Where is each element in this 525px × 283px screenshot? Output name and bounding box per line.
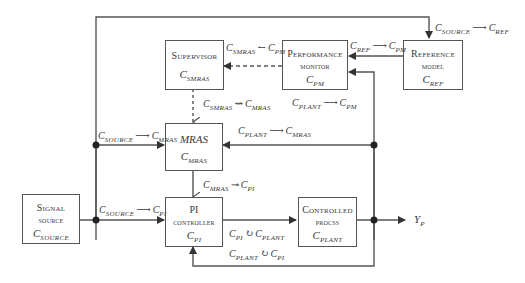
label-plant-to-mras: CPLANT⟶CMRAS <box>238 125 311 139</box>
label-source-to-pi: CSOURCE⟶CPI <box>99 204 167 218</box>
label-pi-with-plant: CPI↻CPLANT <box>229 228 284 242</box>
block-title-2: controller <box>166 216 222 229</box>
block-title-2: monitor <box>283 60 347 73</box>
block-title-2: procss <box>299 216 356 229</box>
label-smras-to-mras: CSMRAS⇝CMRAS <box>203 98 271 112</box>
block-title-2: source <box>23 214 79 227</box>
block-title: Supervisor <box>166 49 223 62</box>
junction-dot <box>371 217 378 224</box>
junction-dot <box>371 142 378 149</box>
pi-controller-block: PI controller CPI <box>165 197 223 247</box>
controlled-process-block: Controlled procss CPLANT <box>298 197 357 247</box>
signal-source-block: Signal source CSOURCE <box>22 194 80 244</box>
label-mras-to-pi: CMRAS⊸CPI <box>203 179 255 193</box>
block-symbol: CREF <box>404 73 462 91</box>
block-title: Signal <box>23 201 79 214</box>
block-title: Reference <box>404 47 462 60</box>
block-title-2: model <box>404 60 462 73</box>
label-ref-to-pm: CREF⟶CPM <box>350 40 406 54</box>
reference-model-block: Reference model CREF <box>403 40 463 90</box>
block-title: Controlled <box>299 203 356 216</box>
label-plant-to-pm: CPLANT⟶CPM <box>292 97 357 111</box>
supervisor-block: Supervisor CSMRAS <box>165 40 224 90</box>
performance-monitor-block: Performance monitor CPM <box>282 40 348 90</box>
block-title: Performance <box>283 47 347 60</box>
block-symbol: CMRAS <box>166 150 222 168</box>
block-symbol: CSOURCE <box>23 227 79 245</box>
block-symbol: CPM <box>283 73 347 91</box>
output-label: YP <box>414 213 425 228</box>
block-title: PI <box>166 203 222 216</box>
block-symbol: CSMRAS <box>166 68 223 86</box>
block-symbol: CPI <box>166 229 222 247</box>
label-plant-with-pi: CPLANT↻CPI <box>229 248 284 262</box>
label-smras-from-pm: CSMRAS↼CPM <box>226 42 285 56</box>
label-source-to-ref: CSOURCE⟶CREF <box>435 22 509 36</box>
label-source-to-mras: CSOURCE⟶CMRAS <box>98 130 177 144</box>
block-symbol: CPLANT <box>299 229 356 247</box>
